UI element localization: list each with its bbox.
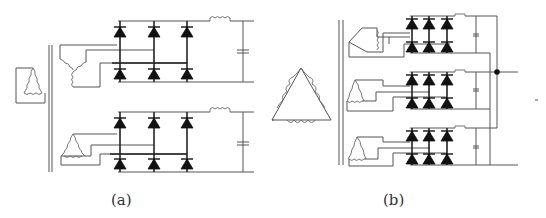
diode-icon bbox=[441, 131, 453, 141]
panel-a bbox=[16, 17, 273, 173]
caption-b: (b) bbox=[383, 191, 404, 209]
diode-icon bbox=[406, 75, 418, 85]
diode-icon bbox=[423, 98, 435, 108]
caption-a: (a) bbox=[111, 191, 132, 209]
diode-icon bbox=[148, 118, 160, 128]
diode-icon bbox=[441, 154, 453, 164]
inductor-icon bbox=[455, 70, 465, 72]
diode-icon bbox=[423, 75, 435, 85]
panel-b bbox=[272, 14, 538, 166]
diode-icon bbox=[423, 131, 435, 141]
circuit-diagram bbox=[0, 0, 546, 218]
diode-icon bbox=[181, 159, 193, 169]
diode-icon bbox=[148, 159, 160, 169]
secondary-wye-winding-icon bbox=[60, 45, 187, 87]
diode-icon bbox=[423, 19, 435, 29]
diode-icon bbox=[114, 69, 126, 79]
bridge-b3 bbox=[348, 126, 518, 166]
secondary-delta-winding-icon bbox=[61, 134, 187, 165]
inductor-icon bbox=[455, 126, 465, 128]
diode-icon bbox=[148, 69, 160, 79]
diode-icon bbox=[406, 98, 418, 108]
diode-icon bbox=[441, 98, 453, 108]
primary-delta-winding-icon bbox=[16, 68, 45, 103]
diode-icon bbox=[114, 27, 126, 37]
primary-delta-winding-icon bbox=[272, 68, 331, 123]
diode-icon bbox=[181, 27, 193, 37]
bridge-a2 bbox=[110, 108, 254, 173]
bridge-a1 bbox=[112, 17, 254, 83]
output-bus bbox=[490, 16, 538, 165]
diode-icon bbox=[148, 27, 160, 37]
bridge-b1 bbox=[349, 14, 490, 57]
diode-icon bbox=[406, 131, 418, 141]
diode-icon bbox=[406, 19, 418, 29]
diode-icon bbox=[441, 75, 453, 85]
diode-icon bbox=[114, 118, 126, 128]
inductor-icon bbox=[210, 17, 230, 22]
inductor-icon bbox=[455, 14, 465, 16]
diode-icon bbox=[423, 154, 435, 164]
inductor-icon bbox=[210, 108, 230, 113]
junction-dot-icon bbox=[494, 69, 500, 75]
diode-icon bbox=[406, 154, 418, 164]
diode-icon bbox=[441, 19, 453, 29]
diode-icon bbox=[181, 69, 193, 79]
diode-icon bbox=[114, 159, 126, 169]
diode-icon bbox=[181, 118, 193, 128]
bridge-b2 bbox=[347, 70, 490, 111]
